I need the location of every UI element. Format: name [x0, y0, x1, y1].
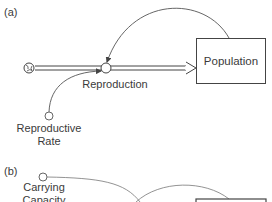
panel-b-label: (b): [4, 165, 17, 177]
carrying-capacity-label-line1: Carrying: [23, 181, 65, 193]
reproductive-rate-label-line2: Rate: [37, 135, 60, 147]
cloud-source-icon: [24, 63, 34, 73]
population-stock: Population: [196, 38, 266, 84]
carrying-capacity-node: [39, 173, 47, 181]
population-stock-b: [196, 199, 266, 202]
carrying-capacity-label-line2: Capacity: [23, 194, 66, 202]
panel-a-label: (a): [4, 6, 17, 18]
diagram-canvas: [0, 0, 272, 202]
flow-pipe: [35, 62, 196, 74]
reproductive-rate-node: [45, 112, 53, 120]
reproductive-rate-label-line1: Reproductive: [17, 122, 82, 134]
reproduction-flow-label: Reproduction: [82, 78, 147, 90]
valve-icon: [101, 63, 111, 73]
